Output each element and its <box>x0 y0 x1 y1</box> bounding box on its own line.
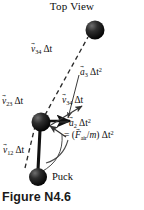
vector-symbol-a: a <box>80 68 85 78</box>
subscript-3: 3 <box>85 71 88 78</box>
subscript-34: 34 <box>66 99 72 106</box>
delta-t: Δt <box>15 145 24 155</box>
construction-curve <box>41 134 62 172</box>
vector-symbol-v: v <box>62 96 66 106</box>
label-v34-upper: v34 Δt <box>31 45 52 55</box>
vector-symbol-v: v <box>2 97 6 107</box>
vector-symbol-F: F <box>75 131 81 141</box>
label-v12: v12 Δt <box>3 146 24 156</box>
label-v23: v23 Δt <box>2 97 23 107</box>
subscript-12: 12 <box>7 149 13 156</box>
paren-close: ) <box>96 130 99 140</box>
equals-sign: = <box>64 130 69 140</box>
vector-symbol-v: v <box>3 146 7 156</box>
delta-t: Δt <box>74 95 83 105</box>
exponent-2: 2 <box>111 129 114 136</box>
delta-t: Δt <box>43 44 52 54</box>
exponent-2: 2 <box>99 66 102 73</box>
puck-position-3 <box>32 113 51 132</box>
delta-t: Δt <box>102 130 111 140</box>
label-a2-equation: = (Fair/m) Δt2 <box>64 130 114 141</box>
subscript-23: 23 <box>6 100 12 107</box>
delta-t: Δt <box>90 67 99 77</box>
puck-position-2 <box>29 168 47 186</box>
puck-position-4 <box>86 21 105 40</box>
label-v34-middle: v34 Δt <box>62 96 83 106</box>
vector-symbol-a: a <box>69 119 74 129</box>
puck-label: Puck <box>52 171 73 182</box>
exponent-2: 2 <box>88 117 91 124</box>
subscript-34: 34 <box>35 48 41 55</box>
delta-t: Δt <box>14 96 23 106</box>
label-a3: a3 Δt2 <box>80 67 102 78</box>
solid-path-v12 <box>38 130 40 170</box>
angle-arc <box>46 140 68 163</box>
figure-caption: Figure N4.6 <box>2 190 71 204</box>
figure-n4-6: Top View v34 Δt a3 Δt2 v23 Δt v34 Δt a2 … <box>0 0 144 210</box>
vector-symbol-v: v <box>31 45 35 55</box>
diagram-title: Top View <box>0 1 144 13</box>
